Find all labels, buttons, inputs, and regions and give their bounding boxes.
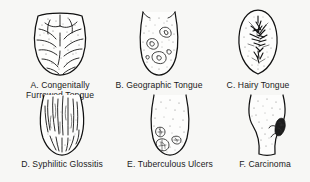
figure-e-tuberculous-ulcers: E. Tuberculous Ulcers (118, 92, 222, 169)
tongue-geographic-icon (128, 6, 190, 78)
figure-b-caption: B. Geographic Tongue (115, 80, 202, 90)
figure-d-caption: D. Syphilitic Glossitis (21, 159, 103, 169)
figure-f-carcinoma: F. Carcinoma (222, 92, 308, 169)
illustration-plate: A. Congenitally Furrowed Tongue (0, 0, 310, 182)
figure-d-syphilitic-glossitis: D. Syphilitic Glossitis (6, 92, 118, 169)
tongue-tuberculous-icon (139, 92, 201, 158)
figure-c-hairy-tongue: C. Hairy Tongue (208, 6, 308, 90)
figure-a-congenitally-furrowed-tongue: A. Congenitally Furrowed Tongue (8, 6, 112, 100)
figure-b-geographic-tongue: B. Geographic Tongue (107, 6, 211, 90)
tongue-carcinoma-icon (234, 92, 296, 158)
figure-f-caption: F. Carcinoma (239, 159, 291, 169)
tongue-furrowed-icon (23, 6, 97, 78)
tongue-hairy-icon (227, 6, 289, 78)
tongue-syphilitic-icon (26, 92, 98, 158)
figure-c-caption: C. Hairy Tongue (227, 80, 290, 90)
figure-e-caption: E. Tuberculous Ulcers (127, 159, 213, 169)
